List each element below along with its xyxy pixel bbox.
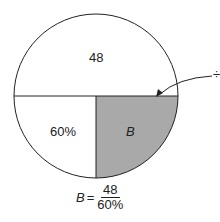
formula: B = 48 60% <box>76 183 123 212</box>
top-half-label: 48 <box>89 50 103 65</box>
shaded-quadrant-label: B <box>126 124 135 139</box>
shaded-quadrant <box>96 96 178 178</box>
formula-numerator: 48 <box>101 183 119 198</box>
formula-fraction: 48 60% <box>97 183 123 212</box>
formula-denominator: 60% <box>97 198 123 212</box>
arrow-curve <box>160 76 212 94</box>
left-quadrant-label: 60% <box>50 124 76 139</box>
divide-symbol: ÷ <box>213 67 220 82</box>
formula-lhs: B <box>76 190 85 205</box>
formula-equals: = <box>87 190 95 205</box>
